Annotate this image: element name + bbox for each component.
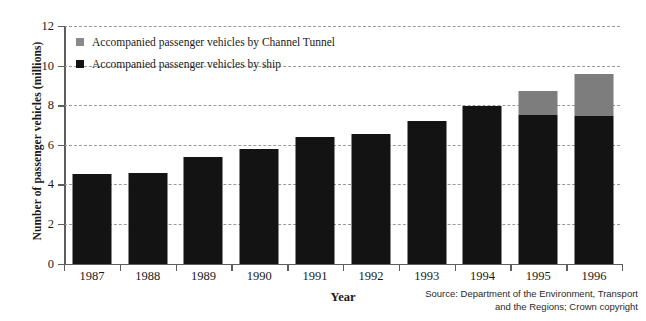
bar-segment-ship[interactable] <box>296 137 335 264</box>
bar-stack-1988[interactable] <box>128 173 167 263</box>
bar-stack-1996[interactable] <box>575 74 614 264</box>
source-line-1: Source: Department of the Environment, T… <box>338 288 638 301</box>
x-tick-label: 1990 <box>231 269 287 284</box>
bar-slot <box>399 26 455 264</box>
bar-stack-1994[interactable] <box>463 106 502 263</box>
tunnel-swatch-icon <box>76 38 84 46</box>
bar-segment-ship[interactable] <box>184 157 223 264</box>
bar-chart: Number of passenger vehicles (millions) … <box>0 0 646 321</box>
bar-segment-ship[interactable] <box>128 173 167 263</box>
x-tick-label: 1993 <box>399 269 455 284</box>
bar-stack-1991[interactable] <box>296 137 335 264</box>
bar-stack-1989[interactable] <box>184 157 223 264</box>
legend-item-tunnel: Accompanied passenger vehicles by Channe… <box>76 36 335 48</box>
bar-segment-tunnel[interactable] <box>575 74 614 117</box>
bar-segment-ship[interactable] <box>463 106 502 263</box>
source-line-2: and the Regions; Crown copyright <box>338 301 638 314</box>
bar-slot <box>455 26 511 264</box>
x-tick-mark <box>622 264 623 271</box>
x-tick-label: 1996 <box>566 269 622 284</box>
bar-segment-ship[interactable] <box>72 174 111 263</box>
bar-stack-1990[interactable] <box>240 149 279 264</box>
legend-label-tunnel: Accompanied passenger vehicles by Channe… <box>92 36 335 48</box>
bar-stack-1992[interactable] <box>351 134 390 264</box>
y-tick-label: 10 <box>42 59 55 72</box>
y-tick-label: 2 <box>48 218 54 231</box>
x-tick-label: 1995 <box>510 269 566 284</box>
y-axis-title: Number of passenger vehicles (millions) <box>31 21 43 261</box>
bar-slot <box>566 26 622 264</box>
legend-item-ship: Accompanied passenger vehicles by ship <box>76 58 335 70</box>
x-tick-label: 1992 <box>343 269 399 284</box>
x-tick-label: 1988 <box>120 269 176 284</box>
bar-segment-ship[interactable] <box>519 115 558 263</box>
y-tick-label: 12 <box>42 20 55 33</box>
legend-label-ship: Accompanied passenger vehicles by ship <box>92 58 281 70</box>
y-tick-label: 6 <box>48 139 54 152</box>
bar-segment-ship[interactable] <box>240 149 279 264</box>
bar-stack-1987[interactable] <box>72 174 111 263</box>
chart-legend: Accompanied passenger vehicles by Channe… <box>76 36 335 80</box>
y-tick-label: 0 <box>48 257 54 270</box>
x-tick-label: 1987 <box>64 269 120 284</box>
bar-stack-1993[interactable] <box>407 121 446 264</box>
y-tick-label: 8 <box>48 99 54 112</box>
bar-segment-tunnel[interactable] <box>519 91 558 115</box>
bar-stack-1995[interactable] <box>519 91 558 263</box>
y-tick-label: 4 <box>48 178 54 191</box>
bar-segment-ship[interactable] <box>575 116 614 263</box>
bar-slot <box>343 26 399 264</box>
x-tick-label: 1989 <box>176 269 232 284</box>
bar-slot <box>510 26 566 264</box>
bar-segment-ship[interactable] <box>407 121 446 264</box>
source-attribution: Source: Department of the Environment, T… <box>338 288 638 314</box>
bar-segment-ship[interactable] <box>351 134 390 264</box>
x-tick-label: 1994 <box>455 269 511 284</box>
x-tick-label: 1991 <box>287 269 343 284</box>
ship-swatch-icon <box>76 60 84 68</box>
